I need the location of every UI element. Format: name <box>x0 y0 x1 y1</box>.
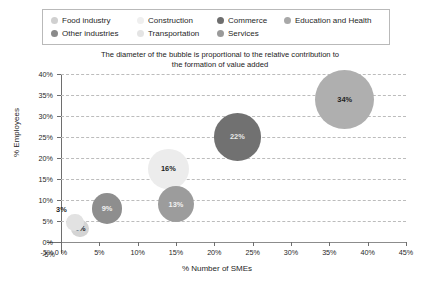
legend-swatch-commerce <box>217 17 224 24</box>
x-tick-mark-15 <box>176 242 177 246</box>
bubble-value-label: 3% <box>56 205 67 214</box>
bubble-value-label: 13% <box>169 200 184 209</box>
x-tick-mark-0 <box>61 242 62 246</box>
legend-swatch-education-and-health <box>284 17 291 24</box>
bubble-chart-figure: Food industry Construction Commerce Educ… <box>0 0 434 287</box>
x-tick-mark-35 <box>329 242 330 246</box>
x-tick-mark-40 <box>368 242 369 246</box>
y-tick-mark-35 <box>57 95 61 96</box>
chart-title-line-2: the formation of value added <box>60 60 380 70</box>
bubble-transportation[interactable] <box>66 214 83 231</box>
gridline-y-15 <box>61 179 406 180</box>
legend-item-other-industries[interactable]: Other industries <box>51 29 137 38</box>
x-tick-label-40: 40% <box>355 248 381 257</box>
bubble-commerce[interactable]: 22% <box>214 113 261 160</box>
chart-title: The diameter of the bubble is proportion… <box>60 50 380 70</box>
y-tick-label-40: 40% <box>27 70 53 79</box>
x-tick-label-5: 5% <box>86 248 112 257</box>
legend-label-transportation: Transportation <box>148 29 199 38</box>
bubble-value-label: 16% <box>161 164 176 173</box>
legend-swatch-other-industries <box>51 30 58 37</box>
bubble-value-label: 22% <box>230 132 245 141</box>
legend-label-food-industry: Food industry <box>62 16 110 25</box>
bubble-services[interactable]: 13% <box>158 186 194 222</box>
x-tick-mark-5 <box>99 242 100 246</box>
y-tick-mark-15 <box>57 179 61 180</box>
legend-swatch-services <box>217 30 224 37</box>
x-tick-label-35: 35% <box>316 248 342 257</box>
chart-title-line-1: The diameter of the bubble is proportion… <box>60 50 380 60</box>
legend-label-other-industries: Other industries <box>62 29 118 38</box>
legend-item-construction[interactable]: Construction <box>137 16 217 25</box>
legend-label-education-and-health: Education and Health <box>295 16 372 25</box>
legend-item-services[interactable]: Services <box>217 29 259 38</box>
legend-row-1: Food industry Construction Commerce Educ… <box>51 14 383 27</box>
y-tick-mark-30 <box>57 116 61 117</box>
x-tick-label-25: 25% <box>240 248 266 257</box>
bubble-construction[interactable]: 16% <box>148 149 188 189</box>
y-tick-label-5: 5% <box>27 217 53 226</box>
chart-legend: Food industry Construction Commerce Educ… <box>42 9 390 45</box>
y-tick-mark-20 <box>57 158 61 159</box>
legend-item-food-industry[interactable]: Food industry <box>51 16 137 25</box>
legend-item-transportation[interactable]: Transportation <box>137 29 217 38</box>
bubble-other-industries[interactable]: 9% <box>92 193 122 223</box>
y-tick-label-25: 25% <box>27 133 53 142</box>
y-tick-mark-5 <box>57 221 61 222</box>
bubble-value-label: 34% <box>337 95 352 104</box>
y-tick-label-35: 35% <box>27 91 53 100</box>
x-tick-label-0: 0 % <box>48 248 74 257</box>
y-axis-title: % Employees <box>12 83 21 183</box>
y-tick-label-15: 15% <box>27 175 53 184</box>
x-tick-label-20: 20% <box>201 248 227 257</box>
y-tick-label-10: 10% <box>27 196 53 205</box>
legend-swatch-food-industry <box>51 17 58 24</box>
x-tick-label-15: 15% <box>163 248 189 257</box>
x-tick-mark-10 <box>138 242 139 246</box>
bubble-education-and-health[interactable]: 34% <box>315 70 374 129</box>
y-tick-label-30: 30% <box>27 112 53 121</box>
x-tick-mark-45 <box>406 242 407 246</box>
legend-swatch-construction <box>137 17 144 24</box>
x-tick-label-45: 45% <box>393 248 419 257</box>
legend-swatch-transportation <box>137 30 144 37</box>
x-axis-title: % Number of SMEs <box>117 264 317 273</box>
x-tick-label-10: 10% <box>125 248 151 257</box>
legend-item-education-and-health[interactable]: Education and Health <box>284 16 372 25</box>
x-tick-mark-20 <box>214 242 215 246</box>
x-tick-mark-25 <box>253 242 254 246</box>
y-tick-mark-10 <box>57 200 61 201</box>
legend-label-services: Services <box>228 29 259 38</box>
bubble-value-label: 9% <box>102 204 113 213</box>
legend-row-2: Other industries Transportation Services <box>51 27 383 40</box>
legend-label-commerce: Commerce <box>228 16 267 25</box>
y-tick-label-0: 0% <box>27 238 53 247</box>
x-tick-label-30: 30% <box>278 248 304 257</box>
x-tick-mark-30 <box>291 242 292 246</box>
legend-item-commerce[interactable]: Commerce <box>217 16 284 25</box>
plot-area: 3%3%9%16%13%22%34% <box>61 74 406 242</box>
y-tick-mark-25 <box>57 137 61 138</box>
gridline-y-0 <box>61 242 406 243</box>
legend-label-construction: Construction <box>148 16 193 25</box>
y-tick-mark-40 <box>57 74 61 75</box>
y-tick-label-20: 20% <box>27 154 53 163</box>
